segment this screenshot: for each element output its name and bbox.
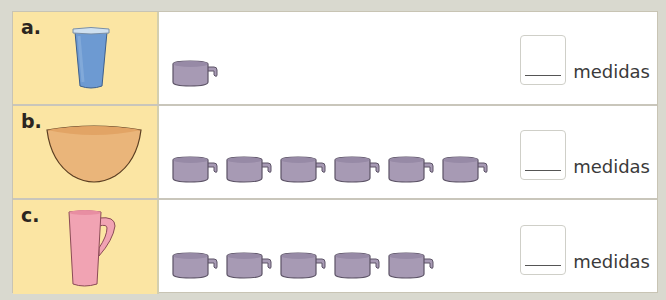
cup-row [171,154,489,184]
content-cell-c: medidas [159,200,657,294]
measuring-cup-icon [387,250,435,280]
answer-input-c[interactable] [520,225,566,275]
measuring-cup-icon [279,154,327,184]
label-cell-b: b. [13,106,159,200]
measuring-cup-icon [225,154,273,184]
measuring-cup-icon [333,250,381,280]
answer-b: medidas [520,130,650,180]
row-letter: b. [21,110,42,132]
measurement-table: a. medidas b. [12,11,658,293]
unit-label: medidas [573,61,650,82]
measuring-cup-icon [171,250,219,280]
blue-glass-icon [69,26,113,90]
unit-label: medidas [573,156,650,177]
row-c: c. medidas [13,198,657,294]
answer-a: medidas [520,35,650,85]
measuring-cup-icon [171,154,219,184]
pink-mug-icon [65,208,121,290]
answer-input-a[interactable] [520,35,566,85]
row-letter: c. [21,204,39,226]
answer-input-b[interactable] [520,130,566,180]
unit-label: medidas [573,251,650,272]
measuring-cup-icon [441,154,489,184]
label-cell-a: a. [13,12,159,104]
content-cell-a: medidas [159,12,657,104]
cup-row [171,58,219,88]
measuring-cup-icon [171,58,219,88]
row-b: b. medidas [13,104,657,200]
measuring-cup-icon [333,154,381,184]
orange-bowl-icon [45,122,143,186]
cup-row [171,250,435,280]
measuring-cup-icon [225,250,273,280]
row-a: a. medidas [13,12,657,104]
row-letter: a. [21,16,41,38]
measuring-cup-icon [279,250,327,280]
content-cell-b: medidas [159,106,657,200]
label-cell-c: c. [13,200,159,294]
answer-c: medidas [520,225,650,275]
measuring-cup-icon [387,154,435,184]
